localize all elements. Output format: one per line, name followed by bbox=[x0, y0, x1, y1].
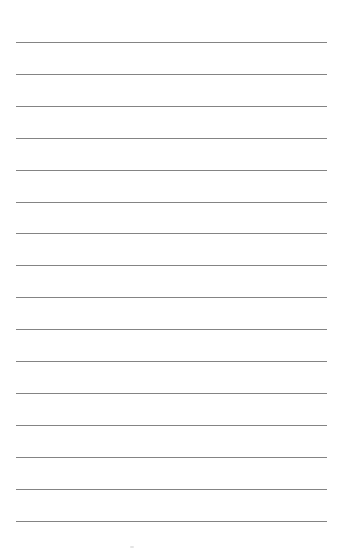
ruled-line bbox=[16, 489, 327, 490]
ruled-line bbox=[16, 329, 327, 330]
ruled-line bbox=[16, 233, 327, 234]
ruled-line bbox=[16, 170, 327, 171]
ruled-line bbox=[16, 138, 327, 139]
ruled-line bbox=[16, 297, 327, 298]
ruled-line bbox=[16, 393, 327, 394]
ruled-line bbox=[16, 361, 327, 362]
ruled-line bbox=[16, 202, 327, 203]
lined-paper-page bbox=[0, 0, 354, 550]
ruled-line bbox=[16, 521, 327, 522]
paper-smudge bbox=[130, 546, 134, 548]
ruled-line bbox=[16, 106, 327, 107]
ruled-line bbox=[16, 42, 327, 43]
ruled-line bbox=[16, 74, 327, 75]
ruled-line bbox=[16, 457, 327, 458]
ruled-line bbox=[16, 425, 327, 426]
ruled-line bbox=[16, 265, 327, 266]
